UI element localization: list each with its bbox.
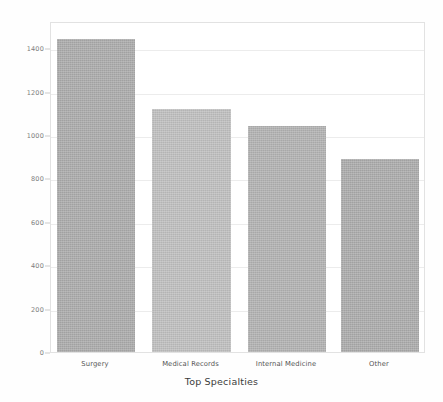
bar-chart-figure: 0200400600800100012001400 SurgeryMedical…: [0, 0, 443, 402]
x-axis-tick-labels: SurgeryMedical RecordsInternal MedicineO…: [0, 0, 443, 402]
x-axis-tick-label: Surgery: [81, 360, 108, 368]
x-axis-title: Top Specialties: [0, 376, 443, 387]
x-axis-tick-label: Medical Records: [162, 360, 219, 368]
x-axis-tick-label: Internal Medicine: [256, 360, 316, 368]
x-axis-tick-label: Other: [369, 360, 389, 368]
